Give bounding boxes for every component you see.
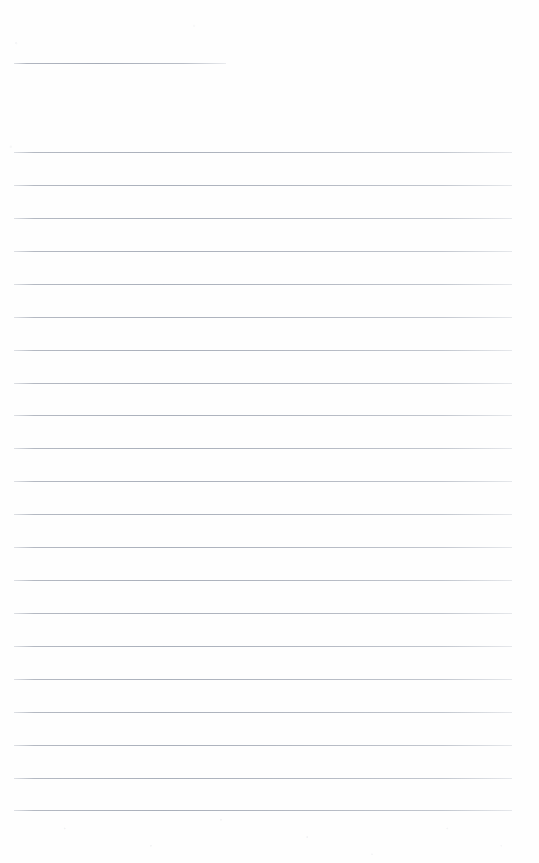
ruled-line (14, 448, 512, 449)
ruled-line (14, 218, 512, 219)
ruled-line (14, 481, 512, 482)
ruled-line (14, 745, 512, 746)
ruled-line (14, 810, 512, 811)
ruled-line (14, 383, 512, 384)
ruled-line (14, 778, 512, 779)
header-rule (14, 63, 226, 64)
ruled-line (14, 415, 512, 416)
ruled-line (14, 679, 512, 680)
ruled-line (14, 152, 512, 153)
paper-grain-texture (0, 0, 539, 863)
ruled-line (14, 547, 512, 548)
ruled-line (14, 317, 512, 318)
ruled-line (14, 646, 512, 647)
notebook-page (0, 0, 539, 863)
ruled-line (14, 251, 512, 252)
ruled-line (14, 613, 512, 614)
ruled-line (14, 712, 512, 713)
ruled-line (14, 350, 512, 351)
ruled-line (14, 185, 512, 186)
ruled-line (14, 580, 512, 581)
ruled-line (14, 284, 512, 285)
ruled-line (14, 514, 512, 515)
